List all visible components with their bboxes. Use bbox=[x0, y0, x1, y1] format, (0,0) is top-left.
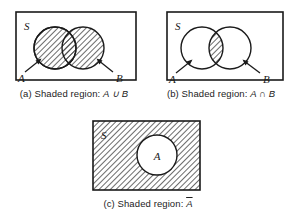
caption-b-prefix: (b) Shaded region: bbox=[167, 88, 250, 99]
panel-b-intersection: S A B (b) Shaded region: A ∩ B bbox=[147, 6, 295, 108]
caption-a: (a) Shaded region: A ∪ B bbox=[0, 88, 148, 99]
universe-label-s: S bbox=[24, 20, 30, 32]
caption-c: (c) Shaded region: A bbox=[57, 198, 239, 209]
caption-b-expression: A ∩ B bbox=[250, 88, 275, 99]
caption-a-prefix: (a) Shaded region: bbox=[20, 88, 103, 99]
panel-c-complement: S A (c) Shaded region: A bbox=[57, 112, 239, 221]
circle-b bbox=[62, 27, 104, 69]
label-a: A bbox=[17, 72, 25, 84]
label-a: A bbox=[168, 73, 176, 85]
panel-a-union: S A B (a) Shaded region: A ∪ B bbox=[0, 6, 148, 108]
label-b: B bbox=[263, 73, 270, 85]
universe-label-s: S bbox=[101, 129, 107, 141]
label-a: A bbox=[153, 150, 161, 162]
caption-c-expression: A bbox=[186, 197, 192, 209]
caption-c-prefix: (c) Shaded region: bbox=[103, 198, 186, 209]
venn-diagram-figure: S A B (a) Shaded region: A ∪ B bbox=[0, 0, 295, 221]
caption-a-expression: A ∪ B bbox=[103, 88, 128, 99]
caption-b: (b) Shaded region: A ∩ B bbox=[147, 88, 295, 99]
universe-label-s: S bbox=[175, 20, 181, 32]
label-b: B bbox=[116, 72, 123, 84]
universe-rectangle bbox=[167, 12, 283, 80]
